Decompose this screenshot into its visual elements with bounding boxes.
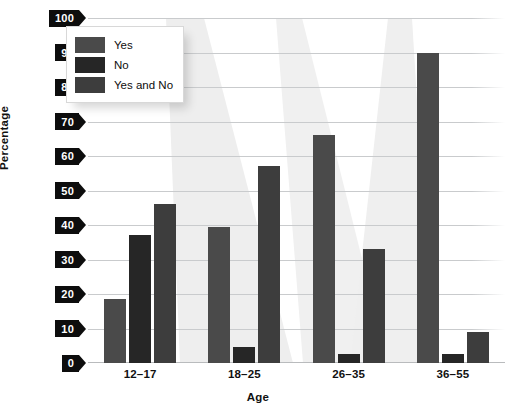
x-axis-tick-label: 36–55 (401, 368, 505, 380)
x-axis-tick-label: 18–25 (192, 368, 296, 380)
tick-pointer-icon (79, 183, 86, 199)
y-axis-tick-label: 10 (0, 320, 88, 337)
legend-label: No (114, 59, 129, 71)
bar (417, 53, 439, 364)
tick-pointer-icon (79, 10, 86, 26)
y-axis-tick-label: 30 (0, 251, 88, 268)
y-tick-value: 20 (55, 286, 79, 303)
y-tick-value: 50 (55, 182, 79, 199)
y-tick-value: 70 (55, 113, 79, 130)
bar (208, 227, 230, 363)
y-tick-value: 10 (55, 320, 79, 337)
legend-item: Yes (75, 35, 173, 54)
bar (258, 166, 280, 363)
x-axis-tick-label: 12–17 (88, 368, 192, 380)
y-axis-tick-label: 50 (0, 182, 88, 199)
legend-swatch (75, 57, 105, 73)
bar (442, 354, 464, 363)
y-tick-value: 0 (62, 355, 79, 372)
y-axis-tick-label: 40 (0, 217, 88, 234)
tick-pointer-icon (79, 148, 86, 164)
tick-pointer-icon (79, 286, 86, 302)
y-tick-value: 60 (55, 148, 79, 165)
bar (233, 347, 255, 363)
chart-legend: YesNoYes and No (66, 26, 184, 103)
bar (467, 332, 489, 363)
y-tick-value: 30 (55, 251, 79, 268)
legend-label: Yes (114, 39, 133, 51)
bar (363, 249, 385, 363)
bar (129, 235, 151, 363)
x-axis-title: Age (0, 391, 516, 403)
legend-item: Yes and No (75, 75, 173, 94)
bar (154, 204, 176, 363)
bar-chart: Percentage 0102030405060708090100 12–171… (0, 0, 516, 416)
y-tick-value: 100 (49, 10, 79, 27)
bar (104, 299, 126, 363)
y-axis-tick-label: 100 (0, 10, 88, 27)
tick-pointer-icon (79, 114, 86, 130)
y-tick-value: 40 (55, 217, 79, 234)
bar (313, 135, 335, 363)
legend-item: No (75, 55, 173, 74)
bar (338, 354, 360, 363)
y-axis-tick-label: 60 (0, 148, 88, 165)
tick-pointer-icon (79, 321, 86, 337)
y-axis-tick-label: 20 (0, 286, 88, 303)
legend-swatch (75, 77, 105, 93)
y-axis-tick-label: 70 (0, 113, 88, 130)
legend-swatch (75, 37, 105, 53)
y-axis-tick-label: 0 (0, 355, 88, 372)
legend-label: Yes and No (114, 79, 173, 91)
tick-pointer-icon (79, 252, 86, 268)
x-axis-tick-label: 26–35 (297, 368, 401, 380)
tick-pointer-icon (79, 355, 86, 371)
tick-pointer-icon (79, 217, 86, 233)
